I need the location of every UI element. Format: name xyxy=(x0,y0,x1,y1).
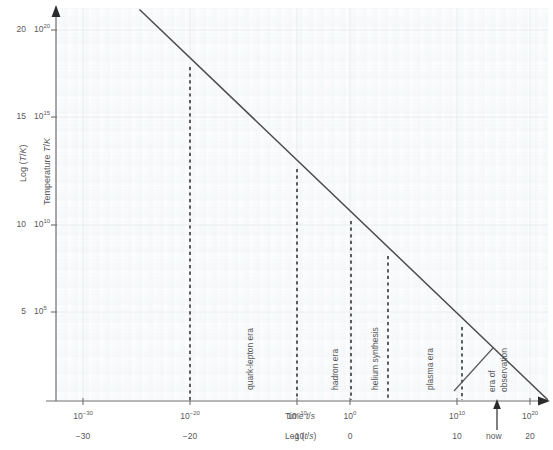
y-tick-exp-20: 20 xyxy=(43,23,50,29)
now-label: now xyxy=(486,431,502,441)
y-tick-exp-5: 5 xyxy=(43,305,46,311)
y-tick-power-5: 105 xyxy=(34,306,47,316)
y-tick-exp-10: 10 xyxy=(43,218,50,224)
era-label-plasma: plasma era xyxy=(425,348,435,390)
x-tick-power-m20: 10−20 xyxy=(170,411,210,421)
x-tick-log-0: 0 xyxy=(332,431,368,441)
y-tick-log-20: 20 xyxy=(6,24,26,34)
y-tick-log-5: 5 xyxy=(6,306,26,316)
y-tick-power-10: 1010 xyxy=(34,219,50,229)
era-label-hadron: hadron era xyxy=(330,349,340,390)
x-tick-exp-0: 0 xyxy=(353,410,356,416)
x-tick-exp-20: 20 xyxy=(531,410,538,416)
x-tick-exp-10: 10 xyxy=(458,410,465,416)
x-tick-exp-m20: −20 xyxy=(190,410,200,416)
era-label-observation-line1: era of xyxy=(487,370,497,392)
y-tick-power-20: 1020 xyxy=(34,24,50,34)
now-arrow xyxy=(493,399,501,430)
x-axis-title-time: Time t/s xyxy=(285,411,315,421)
era-label-helium-synthesis: helium synthesis xyxy=(370,327,380,390)
grid-layer xyxy=(56,8,548,400)
x-tick-log-20: 20 xyxy=(510,431,550,441)
era-label-observation-2: observation xyxy=(499,348,509,392)
y-tick-log-10: 10 xyxy=(6,219,26,229)
x-tick-log-m20: −20 xyxy=(170,431,210,441)
y-tick-log-15: 15 xyxy=(6,111,26,121)
era-label-observation-line2: observation xyxy=(499,348,509,392)
x-tick-power-20: 1020 xyxy=(510,411,550,421)
x-tick-log-m30: −30 xyxy=(63,431,103,441)
x-axis-title-log: Log (t/s) xyxy=(285,431,316,441)
y-axis-title-temperature: Temperature T/K xyxy=(42,138,52,205)
era-label-observation: era of xyxy=(487,370,497,392)
y-tick-exp-15: 15 xyxy=(43,110,50,116)
plot-area xyxy=(56,8,548,400)
chart-root: 1020 1015 1010 105 20 15 10 5 Log (T/K) … xyxy=(0,0,553,450)
x-tick-log-10: 10 xyxy=(437,431,477,441)
y-axis-title-log: Log (T/K) xyxy=(18,144,28,182)
x-tick-exp-m30: −30 xyxy=(83,410,93,416)
era-label-quark-lepton: quark-lepton era xyxy=(245,328,255,390)
x-tick-power-m30: 10−30 xyxy=(63,411,103,421)
x-tick-power-10: 1010 xyxy=(437,411,477,421)
x-tick-power-0: 100 xyxy=(332,411,368,421)
y-tick-power-15: 1015 xyxy=(34,111,50,121)
